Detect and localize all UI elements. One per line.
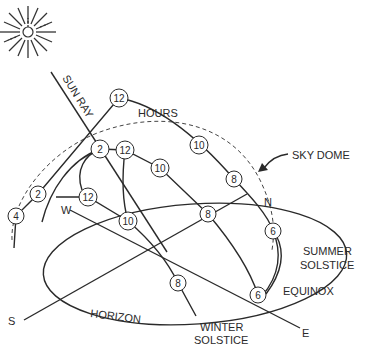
summer-hour-4: 4 bbox=[8, 208, 24, 224]
summer-hour-6: 6 bbox=[265, 223, 281, 239]
equinox-hour-8: 8 bbox=[200, 206, 216, 222]
svg-text:8: 8 bbox=[175, 278, 181, 289]
equinox-hour-6: 6 bbox=[250, 287, 266, 303]
equinox-hour-12: 12 bbox=[116, 141, 134, 159]
equinox-label: EQUINOX bbox=[283, 285, 334, 297]
winter-hour-10: 10 bbox=[119, 212, 137, 230]
equinox-path bbox=[42, 149, 258, 295]
sky-dome-label: SKY DOME bbox=[292, 149, 350, 161]
hours-label: HOURS bbox=[138, 107, 178, 119]
svg-text:12: 12 bbox=[82, 192, 94, 203]
svg-text:2: 2 bbox=[35, 189, 41, 200]
summer-solstice-path-double bbox=[266, 235, 281, 294]
svg-text:4: 4 bbox=[13, 211, 19, 222]
summer-solstice-label-1: SUMMER bbox=[303, 245, 352, 257]
sun-path-diagram: 4 2 12 10 8 6 2 12 10 8 6 12 10 8 SUN RA… bbox=[0, 0, 365, 346]
svg-text:6: 6 bbox=[255, 290, 261, 301]
noon-meridian bbox=[123, 150, 128, 221]
equinox-hour-2: 2 bbox=[91, 140, 109, 158]
compass-west: W bbox=[61, 204, 72, 216]
summer-hour-2: 2 bbox=[30, 186, 46, 202]
summer-solstice-path bbox=[14, 98, 278, 296]
sun-icon bbox=[0, 6, 56, 58]
summer-hour-10: 10 bbox=[190, 136, 208, 154]
svg-text:10: 10 bbox=[122, 216, 134, 227]
winter-solstice-label-2: SOLSTICE bbox=[194, 334, 248, 346]
svg-text:10: 10 bbox=[154, 163, 166, 174]
svg-text:2: 2 bbox=[97, 144, 103, 155]
svg-text:8: 8 bbox=[231, 174, 237, 185]
winter-hour-12: 12 bbox=[79, 188, 97, 206]
compass-south: S bbox=[8, 315, 15, 327]
compass-north: N bbox=[264, 196, 272, 208]
svg-text:10: 10 bbox=[193, 140, 205, 151]
svg-text:6: 6 bbox=[270, 226, 276, 237]
svg-text:8: 8 bbox=[205, 209, 211, 220]
summer-solstice-label-2: SOLSTICE bbox=[300, 259, 354, 271]
svg-text:12: 12 bbox=[119, 145, 131, 156]
summer-hour-8: 8 bbox=[226, 171, 242, 187]
compass-east: E bbox=[302, 327, 309, 339]
winter-solstice-label-1: WINTER bbox=[200, 321, 243, 333]
horizon-label: HORIZON bbox=[90, 307, 142, 325]
equinox-hour-10: 10 bbox=[151, 159, 169, 177]
sky-dome-arrow-icon bbox=[264, 154, 288, 168]
winter-hour-8: 8 bbox=[170, 275, 186, 291]
summer-hour-12: 12 bbox=[110, 89, 128, 107]
svg-text:12: 12 bbox=[113, 93, 125, 104]
